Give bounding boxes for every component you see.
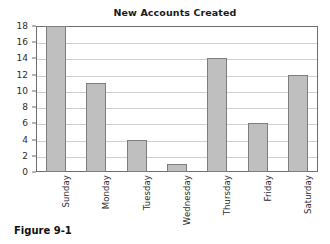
x-tick-label: Friday — [263, 175, 273, 201]
bar — [288, 75, 308, 172]
y-tick-label: 16 — [17, 37, 28, 47]
bar — [207, 58, 227, 172]
x-tick-slot: Monday — [76, 173, 116, 221]
x-tick-label: Saturday — [303, 175, 313, 214]
y-tick-label: 12 — [17, 70, 28, 80]
bar — [86, 83, 106, 172]
x-tick-label: Tuesday — [142, 175, 152, 210]
bar-slot — [36, 26, 76, 172]
y-tick-label: 18 — [17, 21, 28, 31]
y-axis: 024681012141618 — [0, 26, 36, 172]
x-axis: SundayMondayTuesdayWednesdayThursdayFrid… — [36, 173, 318, 221]
figure-container: New Accounts Created 024681012141618 Sun… — [0, 0, 330, 244]
x-tick-slot: Tuesday — [117, 173, 157, 221]
bar — [167, 164, 187, 172]
y-tick-label: 4 — [22, 135, 28, 145]
y-tick-label: 2 — [22, 151, 28, 161]
y-tick-label: 8 — [22, 102, 28, 112]
y-tick-label: 6 — [22, 118, 28, 128]
bar-slot — [117, 26, 157, 172]
bar-slot — [197, 26, 237, 172]
chart-title: New Accounts Created — [40, 7, 310, 18]
x-tick-slot: Friday — [237, 173, 277, 221]
bar — [248, 123, 268, 172]
x-tick-label: Sunday — [61, 175, 71, 207]
y-tick-label: 10 — [17, 86, 28, 96]
bar-series — [36, 26, 318, 172]
x-tick-slot: Wednesday — [157, 173, 197, 221]
x-tick-slot: Sunday — [36, 173, 76, 221]
x-tick-slot: Thursday — [197, 173, 237, 221]
bar — [46, 26, 66, 172]
bar-slot — [76, 26, 116, 172]
x-tick-slot: Saturday — [278, 173, 318, 221]
bar-slot — [157, 26, 197, 172]
x-tick-label: Wednesday — [182, 175, 192, 225]
figure-caption: Figure 9-1 — [14, 225, 72, 236]
bar-slot — [278, 26, 318, 172]
x-tick-label: Monday — [101, 175, 111, 209]
y-tick-label: 0 — [22, 167, 28, 177]
bar-slot — [237, 26, 277, 172]
bar — [127, 140, 147, 172]
y-tick-label: 14 — [17, 53, 28, 63]
x-tick-label: Thursday — [222, 175, 232, 215]
